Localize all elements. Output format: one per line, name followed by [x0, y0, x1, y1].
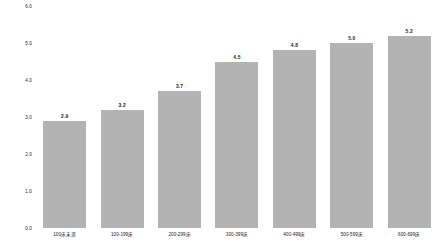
bar-group: 2.9 [36, 6, 93, 228]
y-axis-tick-label: 1.0 [25, 189, 32, 194]
y-axis-tick-label: 3.0 [25, 115, 32, 120]
x-axis-tick-label: 400-499床 [266, 231, 323, 237]
plot-area: 2.93.23.74.54.85.05.2 [36, 6, 438, 228]
bar[interactable] [158, 91, 201, 228]
bar-group: 4.8 [266, 6, 323, 228]
bar-value-label: 3.7 [176, 84, 183, 89]
bar-group: 5.0 [323, 6, 380, 228]
x-axis: 100床未満100-199床200-299床300-399床400-499床50… [36, 231, 438, 247]
x-axis-tick-label: 100-199床 [93, 231, 150, 237]
y-axis-tick-label: 2.0 [25, 152, 32, 157]
bar[interactable] [101, 110, 144, 228]
bar-group: 5.2 [381, 6, 438, 228]
y-axis-tick-label: 6.0 [25, 4, 32, 9]
bar-value-label: 4.8 [291, 43, 298, 48]
bar-series: 2.93.23.74.54.85.05.2 [36, 6, 438, 228]
bar-group: 3.2 [93, 6, 150, 228]
bar-value-label: 5.0 [348, 36, 355, 41]
x-axis-tick-label: 500-599床 [323, 231, 380, 237]
bar-value-label: 4.5 [233, 55, 240, 60]
bar-value-label: 3.2 [119, 103, 126, 108]
bar-chart: 6.05.04.03.02.01.00.0 2.93.23.74.54.85.0… [0, 0, 442, 251]
x-axis-tick-label: 600-699床 [381, 231, 438, 237]
bar[interactable] [273, 50, 316, 228]
y-axis-tick-label: 4.0 [25, 78, 32, 83]
x-axis-tick-label: 300-399床 [208, 231, 265, 237]
y-axis-tick-label: 0.0 [25, 226, 32, 231]
bar[interactable] [43, 121, 86, 228]
bar-value-label: 2.9 [61, 114, 68, 119]
bar-group: 3.7 [151, 6, 208, 228]
x-axis-tick-label: 200-299床 [151, 231, 208, 237]
bar[interactable] [215, 62, 258, 229]
bar-group: 4.5 [208, 6, 265, 228]
x-axis-tick-label: 100床未満 [36, 231, 93, 237]
y-axis-tick-label: 5.0 [25, 41, 32, 46]
bar[interactable] [388, 36, 431, 228]
bar-value-label: 5.2 [406, 29, 413, 34]
bar[interactable] [330, 43, 373, 228]
y-axis: 6.05.04.03.02.01.00.0 [0, 0, 36, 251]
